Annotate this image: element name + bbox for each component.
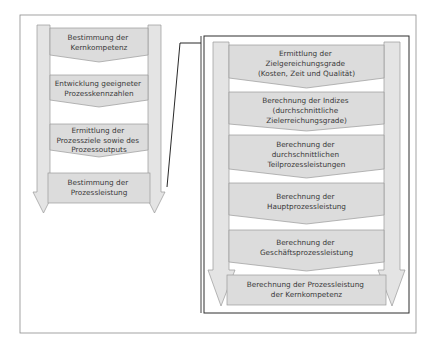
detail-step-2-label: Berechnung der Indizes (durchschnittlich… xyxy=(262,96,351,125)
detail-step-4-label: Berechnung der Hauptprozessleistung xyxy=(267,192,346,211)
process-diagram: Bestimmung der Kernkompetenz Entwicklung… xyxy=(0,0,435,339)
detail-step-3-label: Berechnung der durchschnittlichen Teilpr… xyxy=(267,140,346,169)
overview-step-2-label: Entwicklung geeigneter Prozesskennzahlen xyxy=(55,79,144,98)
overview-step-4-label: Bestimmung der Prozessleistung xyxy=(67,178,130,197)
overview-step-1-label: Bestimmung der Kernkompetenz xyxy=(67,33,130,52)
